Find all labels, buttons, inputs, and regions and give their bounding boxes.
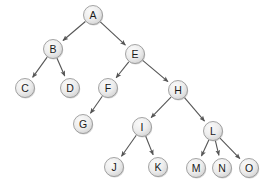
tree-edge-f-g bbox=[90, 96, 102, 113]
tree-edge-a-e bbox=[100, 22, 125, 45]
tree-edge-i-j bbox=[122, 135, 137, 156]
node-circle-f[interactable] bbox=[99, 79, 118, 98]
node-circle-j[interactable] bbox=[105, 158, 124, 177]
tree-node-k[interactable]: K bbox=[149, 158, 169, 178]
tree-node-n[interactable]: N bbox=[213, 159, 233, 179]
node-circle-h[interactable] bbox=[169, 81, 188, 100]
tree-edge-b-c bbox=[33, 57, 48, 77]
tree-edge-i-k bbox=[146, 136, 153, 155]
node-circle-o[interactable] bbox=[240, 159, 259, 178]
tree-node-i[interactable]: I bbox=[133, 118, 153, 138]
tree-edge-h-l bbox=[184, 98, 204, 121]
node-circle-a[interactable] bbox=[84, 6, 103, 25]
node-circle-c[interactable] bbox=[16, 79, 35, 98]
tree-node-f[interactable]: F bbox=[99, 79, 119, 99]
tree-node-m[interactable]: M bbox=[187, 159, 207, 179]
node-circle-n[interactable] bbox=[213, 159, 232, 178]
tree-node-l[interactable]: L bbox=[204, 122, 224, 142]
tree-edge-l-o bbox=[220, 138, 240, 158]
tree-edge-b-d bbox=[57, 58, 65, 76]
tree-node-c[interactable]: C bbox=[16, 79, 36, 99]
tree-edge-e-f bbox=[116, 62, 129, 78]
tree-node-d[interactable]: D bbox=[61, 79, 81, 99]
tree-edge-l-m bbox=[201, 140, 208, 156]
tree-edge-h-i bbox=[151, 97, 171, 117]
tree-node-g[interactable]: G bbox=[74, 115, 94, 135]
node-layer: ABECDFHGILJKMNO bbox=[16, 6, 260, 179]
tree-node-h[interactable]: H bbox=[169, 81, 189, 101]
tree-edge-e-h bbox=[143, 60, 168, 81]
tree-node-o[interactable]: O bbox=[240, 159, 260, 179]
node-circle-l[interactable] bbox=[204, 122, 223, 141]
tree-node-a[interactable]: A bbox=[84, 6, 104, 26]
node-circle-g[interactable] bbox=[74, 115, 93, 134]
tree-edge-a-b bbox=[63, 21, 85, 40]
node-circle-m[interactable] bbox=[187, 159, 206, 178]
node-circle-e[interactable] bbox=[126, 45, 145, 64]
node-circle-k[interactable] bbox=[149, 158, 168, 177]
tree-canvas: ABECDFHGILJKMNO bbox=[0, 0, 275, 189]
tree-node-e[interactable]: E bbox=[126, 45, 146, 65]
tree-node-j[interactable]: J bbox=[105, 158, 125, 178]
node-circle-d[interactable] bbox=[61, 79, 80, 98]
tree-node-b[interactable]: B bbox=[44, 40, 64, 60]
node-circle-b[interactable] bbox=[44, 40, 63, 59]
node-circle-i[interactable] bbox=[133, 118, 152, 137]
tree-edge-l-n bbox=[215, 141, 219, 156]
tree-diagram: ABECDFHGILJKMNO bbox=[0, 0, 275, 189]
